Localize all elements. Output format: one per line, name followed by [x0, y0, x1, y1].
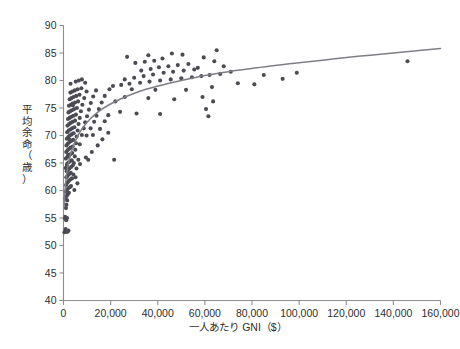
- y-tick-label: 50: [45, 239, 57, 251]
- data-point: [68, 138, 72, 142]
- data-point: [69, 82, 73, 86]
- data-point: [151, 72, 155, 76]
- data-point: [153, 88, 157, 92]
- data-point: [87, 108, 91, 112]
- data-point: [192, 67, 196, 71]
- data-point: [106, 131, 110, 135]
- data-point: [262, 73, 266, 77]
- data-point: [204, 107, 208, 111]
- data-point: [184, 88, 188, 92]
- x-tick-label: 20,000: [95, 307, 127, 319]
- data-point: [89, 126, 93, 130]
- data-point: [80, 77, 84, 81]
- x-axis-title: 一人あたり GNI（$）: [189, 321, 286, 333]
- data-point: [176, 63, 180, 67]
- data-point: [75, 106, 79, 110]
- data-point: [112, 158, 116, 162]
- y-tick-label: 40: [45, 294, 57, 306]
- data-point: [138, 81, 142, 85]
- data-point: [75, 181, 79, 185]
- data-point: [63, 215, 67, 219]
- data-point: [69, 184, 73, 188]
- data-point: [236, 81, 240, 85]
- data-point: [295, 71, 299, 75]
- data-point: [73, 154, 77, 158]
- x-tick-label: 60,000: [189, 307, 221, 319]
- data-point: [202, 55, 206, 59]
- data-point: [77, 122, 81, 126]
- data-point: [78, 162, 82, 166]
- x-tick-label: 120,000: [327, 307, 365, 319]
- data-point: [106, 113, 110, 117]
- data-point: [170, 52, 174, 56]
- scatter-plot-svg: 4045505560657075808590 020,00040,00060,0…: [0, 0, 460, 349]
- y-tick-label: 85: [45, 47, 57, 59]
- data-point: [180, 53, 184, 57]
- data-point: [158, 112, 162, 116]
- data-point: [134, 111, 138, 115]
- data-point: [91, 133, 95, 137]
- data-point: [133, 61, 137, 65]
- data-point: [85, 133, 89, 137]
- data-point: [66, 229, 70, 233]
- data-point: [157, 65, 161, 69]
- data-point: [222, 64, 226, 68]
- data-point: [146, 53, 150, 57]
- data-point: [132, 76, 136, 80]
- data-point: [171, 70, 175, 74]
- data-point: [96, 143, 100, 147]
- data-point: [147, 80, 151, 84]
- data-point: [143, 60, 147, 64]
- data-point: [72, 188, 76, 192]
- data-point: [85, 89, 89, 93]
- data-point: [90, 150, 94, 154]
- data-point: [252, 82, 256, 86]
- data-point: [111, 84, 115, 88]
- data-point: [84, 155, 88, 159]
- data-point: [166, 64, 170, 68]
- y-tick-label: 60: [45, 184, 57, 196]
- data-point: [125, 55, 129, 59]
- data-point: [127, 82, 131, 86]
- y-tick-label: 80: [45, 74, 57, 86]
- y-axis-title: 平 均 余 命 （ 歳 ）: [20, 104, 34, 185]
- data-point: [80, 133, 84, 137]
- data-point: [73, 148, 77, 152]
- chart-figure: 4045505560657075808590 020,00040,00060,0…: [0, 0, 460, 349]
- x-tick-label: 0: [61, 307, 67, 319]
- y-tick-label: 75: [45, 102, 57, 114]
- data-point: [74, 113, 78, 117]
- data-point: [98, 127, 102, 131]
- data-point: [100, 100, 104, 104]
- data-point: [82, 96, 86, 100]
- data-point: [146, 96, 150, 100]
- data-point: [139, 69, 143, 73]
- data-point: [71, 103, 75, 107]
- data-point: [77, 93, 81, 97]
- y-tick-label: 65: [45, 157, 57, 169]
- data-point: [78, 142, 82, 146]
- data-point: [158, 78, 162, 82]
- data-point: [206, 114, 210, 118]
- data-point: [92, 120, 96, 124]
- data-point: [100, 137, 104, 141]
- data-point: [76, 158, 80, 162]
- data-point: [182, 69, 186, 73]
- data-point: [405, 59, 409, 63]
- x-tick-label: 140,000: [374, 307, 412, 319]
- data-point: [72, 161, 76, 165]
- data-point: [76, 99, 80, 103]
- data-point: [72, 131, 76, 135]
- data-point: [169, 77, 173, 81]
- data-point: [94, 88, 98, 92]
- data-point: [152, 59, 156, 63]
- data-point: [215, 48, 219, 52]
- data-point: [73, 175, 77, 179]
- data-point: [211, 99, 215, 103]
- y-tick-label: 70: [45, 129, 57, 141]
- data-point: [103, 94, 107, 98]
- data-point: [186, 62, 190, 66]
- y-tick-label: 90: [45, 19, 57, 31]
- data-point: [130, 87, 134, 91]
- data-point: [200, 95, 204, 99]
